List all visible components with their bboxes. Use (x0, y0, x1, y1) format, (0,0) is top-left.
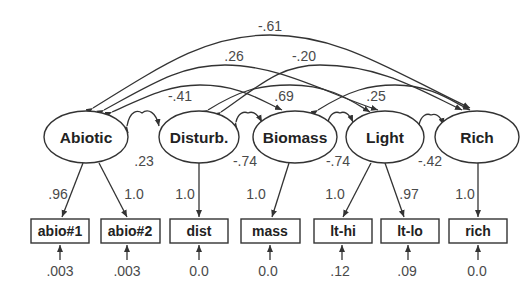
arc-biomass-rich (318, 85, 470, 110)
arc-biomass-light (328, 112, 353, 122)
indicator-label: dist (187, 223, 212, 239)
corr-abiotic-light: .26 (224, 48, 244, 64)
node-label: Biomass (263, 129, 328, 146)
node-rich[interactable]: Rich (435, 111, 519, 163)
error-value: .12 (330, 263, 350, 279)
arrow-biomass-mass (272, 163, 289, 217)
indicator-label: lt-lo (397, 223, 423, 239)
indicator-abio2[interactable]: abio#2 (101, 219, 160, 243)
indicator-label: rich (465, 223, 491, 239)
node-label: Abiotic (60, 129, 113, 146)
arrow-light-lthi (343, 163, 371, 217)
loading-value: 1.0 (246, 186, 266, 202)
indicator-mass[interactable]: mass (241, 219, 300, 243)
arc-abiotic-biomass (112, 85, 282, 112)
corr-biomass-light: -.74 (326, 153, 350, 169)
corr-light-rich: -.42 (418, 153, 442, 169)
error-values: .003 .003 0.0 0.0 .12 .09 0.0 (46, 263, 487, 279)
corr-disturb-rich: -.20 (292, 48, 316, 64)
node-light[interactable]: Light (346, 111, 424, 163)
corr-abiotic-rich: -.61 (258, 18, 282, 34)
corr-disturb-light: .69 (274, 88, 294, 104)
indicator-label: mass (252, 223, 288, 239)
corr-abiotic-biomass: -.41 (168, 88, 192, 104)
node-label: Light (366, 129, 404, 146)
indicator-label: abio#1 (38, 223, 83, 239)
arc-abiotic-light (104, 65, 378, 110)
indicator-ltlo[interactable]: lt-lo (381, 219, 439, 243)
arc-abiotic-disturb (127, 111, 159, 126)
error-value: 0.0 (467, 263, 487, 279)
indicator-abio1[interactable]: abio#1 (31, 219, 89, 243)
indicator-label: lt-hi (330, 223, 356, 239)
arrow-abiotic-abio2 (99, 163, 127, 217)
error-value: .003 (113, 263, 140, 279)
node-biomass[interactable]: Biomass (253, 111, 337, 163)
latent-nodes: Abiotic Disturb. Biomass Light Rich (44, 111, 519, 163)
error-value: 0.0 (189, 263, 209, 279)
indicator-dist[interactable]: dist (170, 219, 228, 243)
loading-value: 1.0 (124, 186, 144, 202)
loading-value: 1.0 (325, 186, 345, 202)
node-abiotic[interactable]: Abiotic (44, 111, 128, 163)
corr-biomass-rich: .25 (366, 88, 386, 104)
error-arrows (60, 245, 478, 260)
indicator-rich[interactable]: rich (449, 219, 507, 243)
error-value: .003 (46, 263, 73, 279)
arc-disturb-biomass (236, 112, 262, 122)
indicator-lthi[interactable]: lt-hi (314, 219, 372, 243)
corr-abiotic-disturb: .23 (134, 153, 154, 169)
indicator-boxes: abio#1 abio#2 dist mass lt-hi lt-lo rich (31, 219, 507, 243)
corr-disturb-biomass: -.74 (233, 153, 257, 169)
sem-diagram: Abiotic Disturb. Biomass Light Rich (0, 0, 531, 293)
node-disturb[interactable]: Disturb. (159, 111, 239, 163)
indicator-label: abio#2 (108, 223, 153, 239)
loading-value: 1.0 (455, 186, 475, 202)
node-label: Disturb. (170, 129, 229, 146)
error-value: .09 (397, 263, 417, 279)
node-label: Rich (460, 129, 494, 146)
loading-value: .96 (48, 186, 68, 202)
loading-value: 1.0 (175, 186, 195, 202)
error-value: 0.0 (258, 263, 278, 279)
loading-value: .97 (399, 186, 419, 202)
